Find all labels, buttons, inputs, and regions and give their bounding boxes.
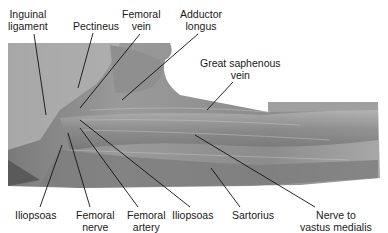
label-pectineus: Pectineus [73,20,119,32]
label-text: Nerve to [300,209,372,221]
label-text: vastus medialis [300,221,372,233]
label-text: longus [180,20,222,32]
label-iliopsoas-left: Iliopsoas [15,209,56,221]
label-text: Femoral [76,209,115,221]
label-text: vein [122,20,161,32]
label-text: ligament [8,20,48,32]
dissection-photo [0,0,388,233]
label-text: Inguinal [8,8,48,20]
label-text: Iliopsoas [15,209,56,221]
label-text: Adductor [180,8,222,20]
label-text: Pectineus [73,20,119,32]
label-text: nerve [76,221,115,233]
label-text: Femoral [127,209,166,221]
label-femoral-vein: Femoral vein [122,8,161,32]
label-text: artery [127,221,166,233]
label-nerve-to-vastus-medialis: Nerve to vastus medialis [300,209,372,233]
label-femoral-artery: Femoral artery [127,209,166,233]
label-iliopsoas-right: Iliopsoas [172,209,213,221]
label-text: Femoral [122,8,161,20]
label-sartorius: Sartorius [232,209,274,221]
label-great-saphenous-vein: Great saphenous vein [200,57,281,81]
label-text: Sartorius [232,209,274,221]
label-text: Iliopsoas [172,209,213,221]
label-adductor-longus: Adductor longus [180,8,222,32]
label-inguinal-ligament: Inguinal ligament [8,8,48,32]
label-text: vein [200,69,281,81]
label-text: Great saphenous [200,57,281,69]
label-femoral-nerve: Femoral nerve [76,209,115,233]
